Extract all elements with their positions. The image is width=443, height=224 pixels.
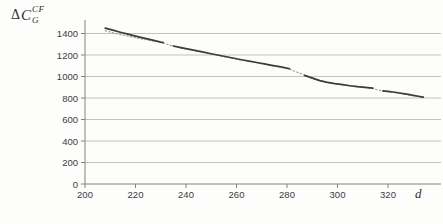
y-tick-label: 1400 [57,28,78,39]
y-tick-label: 800 [62,93,78,104]
y-tick-label: 1200 [57,50,78,61]
x-axis-label: d [415,186,422,202]
y-tick-label: 200 [62,157,78,168]
x-tick-label: 280 [279,189,295,200]
x-tick-label: 260 [229,189,245,200]
y-axis-label: ΔCCFG [11,5,45,25]
y-tick-label: 0 [73,179,78,190]
y-axis-label-subscript: G [32,16,45,25]
y-tick-label: 400 [62,136,78,147]
x-tick-label: 220 [128,189,144,200]
y-axis-label-superscript: CF [32,5,45,14]
series-solid-segment [305,75,373,88]
y-axis-label-delta: Δ [11,5,20,25]
y-tick-label: 1000 [57,71,78,82]
x-tick-label: 320 [380,189,396,200]
x-tick-label: 200 [77,189,93,200]
x-tick-label: 300 [330,189,346,200]
series-solid-segment [105,28,163,43]
chart-canvas: 0200400600800100012001400200220240260280… [0,0,443,224]
y-axis-label-symbol: C [21,5,31,25]
series-solid-segment [173,46,289,69]
series-solid-segment [383,91,423,97]
chart-figure: 0200400600800100012001400200220240260280… [0,0,443,224]
y-tick-label: 600 [62,114,78,125]
x-tick-label: 240 [178,189,194,200]
